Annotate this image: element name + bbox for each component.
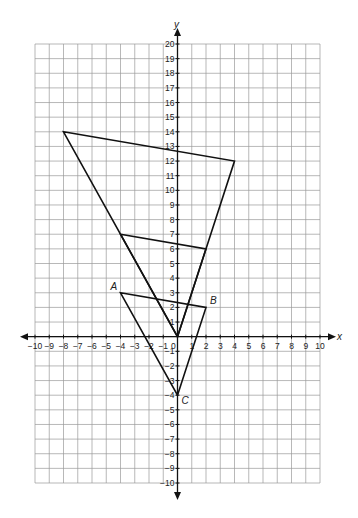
y-tick-label: 4 xyxy=(170,273,175,283)
x-tick-label: 10 xyxy=(315,341,325,351)
y-tick-label: 5 xyxy=(170,259,175,269)
x-tick-label: −5 xyxy=(101,341,111,351)
x-tick-label: 9 xyxy=(303,341,308,351)
x-tick-label: 3 xyxy=(218,341,223,351)
x-tick-label: −3 xyxy=(130,341,140,351)
coordinate-plane: −10−9−8−7−6−5−4−3−2−11234567891020191817… xyxy=(0,0,358,518)
y-tick-label: 12 xyxy=(165,156,175,166)
y-tick-label: 16 xyxy=(165,98,175,108)
y-tick-label: −2 xyxy=(165,361,175,371)
x-axis-label: x xyxy=(336,331,343,342)
x-tick-label: −8 xyxy=(59,341,69,351)
y-tick-label: 15 xyxy=(165,112,175,122)
y-tick-label: −9 xyxy=(165,463,175,473)
y-tick-label: 20 xyxy=(165,39,175,49)
y-tick-label: −7 xyxy=(165,434,175,444)
y-tick-label: 19 xyxy=(165,54,175,64)
x-tick-label: −9 xyxy=(44,341,54,351)
x-tick-label: −4 xyxy=(116,341,126,351)
x-tick-label: −7 xyxy=(73,341,83,351)
x-tick-label: 2 xyxy=(204,341,209,351)
point-label-c: C xyxy=(182,395,190,406)
y-tick-label: 9 xyxy=(170,200,175,210)
y-tick-label: 10 xyxy=(165,185,175,195)
point-label-b: B xyxy=(210,295,217,306)
y-tick-label: 8 xyxy=(170,215,175,225)
y-tick-label: −4 xyxy=(165,390,175,400)
x-tick-label: 4 xyxy=(232,341,237,351)
x-tick-label: 6 xyxy=(261,341,266,351)
y-tick-label: −8 xyxy=(165,449,175,459)
x-tick-label: 7 xyxy=(275,341,280,351)
y-tick-label: 14 xyxy=(165,127,175,137)
x-axis-left-arrow-icon xyxy=(20,333,28,340)
y-tick-label: −6 xyxy=(165,419,175,429)
y-tick-label: 18 xyxy=(165,68,175,78)
y-tick-label: 11 xyxy=(166,171,175,181)
y-tick-label: 17 xyxy=(165,83,175,93)
y-tick-label: 2 xyxy=(170,302,175,312)
origin-label: 0 xyxy=(171,341,176,351)
y-tick-label: 6 xyxy=(170,244,175,254)
axes xyxy=(20,28,336,500)
point-label-a: A xyxy=(110,281,118,292)
x-axis-right-arrow-icon xyxy=(328,333,336,340)
y-axis-down-arrow-icon xyxy=(174,492,181,500)
y-tick-label: 7 xyxy=(170,229,175,239)
x-tick-label: 5 xyxy=(246,341,251,351)
y-tick-label: 3 xyxy=(170,288,175,298)
y-axis-label: y xyxy=(173,19,180,30)
y-tick-label: −5 xyxy=(165,405,175,415)
x-tick-label: −6 xyxy=(87,341,97,351)
x-tick-label: −10 xyxy=(28,341,43,351)
x-tick-label: 8 xyxy=(289,341,294,351)
y-tick-label: −10 xyxy=(160,478,175,488)
